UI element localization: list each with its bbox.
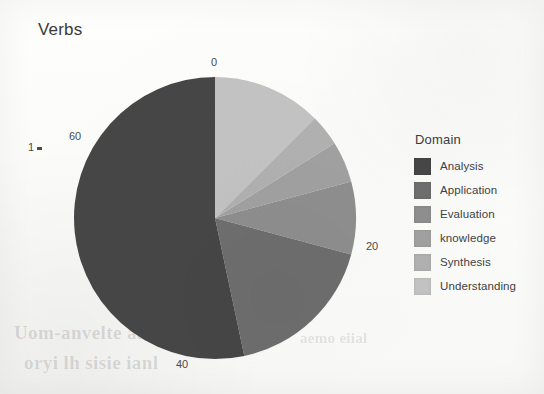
legend-item-label: Application [440,184,497,196]
legend-swatch-icon [414,158,431,175]
legend-item-label: Synthesis [440,256,491,268]
legend-item-label: Analysis [440,160,484,172]
pie-slice-group [74,77,356,359]
chart-page: Uom-anvelte aaaglia oryi lh sisie ianl a… [0,0,544,394]
axis-tick-40: 40 [176,358,188,370]
legend-item-application[interactable]: Application [414,178,516,202]
legend-item-label: Understanding [440,280,516,292]
legend-item-list: AnalysisApplicationEvaluationknowledgeSy… [414,154,516,298]
legend-item-evaluation[interactable]: Evaluation [414,202,516,226]
axis-tick-0: 0 [211,56,217,68]
pie-chart [73,76,357,360]
legend-swatch-icon [414,278,431,295]
legend-swatch-icon [414,230,431,247]
legend-swatch-icon [414,254,431,271]
pie-svg [73,76,357,360]
axis-tick-60: 60 [69,130,81,142]
legend-item-synthesis[interactable]: Synthesis [414,250,516,274]
chart-title: Verbs [38,20,82,40]
axis-stub-label: 1 [28,141,42,153]
legend-item-analysis[interactable]: Analysis [414,154,516,178]
legend-item-label: knowledge [440,232,496,244]
axis-tick-mark-icon [37,147,42,150]
axis-tick-20: 20 [366,240,378,252]
legend-item-understanding[interactable]: Understanding [414,274,516,298]
legend-swatch-icon [414,182,431,199]
axis-stub-value: 1 [28,141,34,153]
legend-item-knowledge[interactable]: knowledge [414,226,516,250]
legend-swatch-icon [414,206,431,223]
legend: Domain AnalysisApplicationEvaluationknow… [414,132,516,298]
legend-title: Domain [415,132,516,147]
legend-item-label: Evaluation [440,208,495,220]
